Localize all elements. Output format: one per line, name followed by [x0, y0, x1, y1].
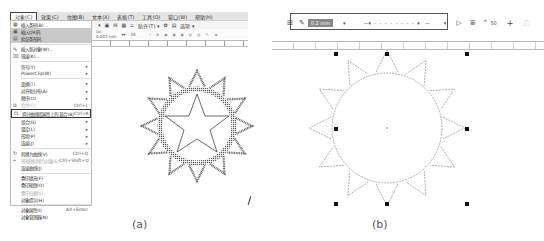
grid-icon[interactable]: ▦	[121, 22, 126, 28]
menu-item-label: 连接(J)	[21, 140, 34, 146]
menu-item[interactable]: 组合(G)▸	[11, 118, 91, 125]
options-dropdown[interactable]: 选项 ▾	[180, 22, 194, 29]
submenu-arrow-icon: ▸	[86, 81, 88, 86]
object-menu-dropdown: ▦插入条码(B)...▣插入QR码▤验证条形码✎插入新对象(W)...⌧链接(K…	[10, 20, 92, 206]
menu-item[interactable]: ↻转换为曲线(V)Ctrl+Q	[11, 150, 91, 157]
menu-item[interactable]: 叠印位图(V)	[11, 189, 91, 196]
menu-item-label: 锁定(L)	[21, 126, 35, 132]
menu-item-label: 对齐和分布(A)	[21, 88, 48, 94]
menu-item[interactable]: ▣插入QR码	[11, 28, 91, 35]
blend-dir-icon-3[interactable]: ◈	[181, 32, 184, 37]
menu-separator	[21, 148, 91, 149]
submenu-arrow-icon: ▸	[86, 119, 88, 124]
selection-handle-mr[interactable]	[465, 127, 469, 131]
menu-item[interactable]: 变换(T)▸	[11, 80, 91, 87]
menubar-item-6[interactable]: 窗口(W)	[164, 13, 191, 20]
selection-handle-ml[interactable]	[334, 127, 338, 131]
menu-item-label: 链接(K)...	[21, 53, 40, 59]
color-blend-icon-1[interactable]: ◎	[189, 32, 193, 37]
menu-item[interactable]: PowerClip(W)▸	[11, 70, 91, 77]
dropdown-arrow-icon[interactable]: ▾▾	[122, 32, 126, 37]
menu-item-label: 连接曲线(J)	[21, 165, 42, 171]
plus-button[interactable]: +	[507, 19, 514, 28]
menu-item-label: 叠印填充(F)	[21, 175, 43, 181]
menu-item[interactable]: ⌁将轮廓转换为对象(E)Ctrl+Shift+Q	[11, 157, 91, 164]
copy-blend-icon[interactable]: ⇲	[214, 32, 217, 37]
menu-item-icon: ▦	[13, 22, 18, 27]
selection-handle-bl[interactable]	[334, 202, 338, 206]
launch-icon[interactable]: ▤	[172, 22, 177, 28]
menu-item-icon: ✎	[13, 47, 18, 52]
menu-separator	[21, 78, 91, 79]
menu-item[interactable]: 符号(Y)▸	[11, 63, 91, 70]
miter-icon[interactable]: ⌃	[483, 19, 489, 27]
menu-item[interactable]: 对象提示(H)	[11, 196, 91, 203]
menu-item[interactable]: 对象管理器(N)	[11, 214, 91, 221]
menu-separator	[21, 173, 91, 174]
menu-item[interactable]: ⊡拆分曲线段属性上的 混合(B)Ctrl+K	[11, 109, 91, 118]
menu-item-icon: ↻	[13, 151, 18, 156]
selection-handle-tc[interactable]	[385, 52, 389, 56]
menu-item[interactable]: ⌧链接(K)...	[11, 53, 91, 60]
color-blend-icon-2[interactable]: ◎	[197, 32, 201, 37]
menu-item[interactable]: 锁定(L)▸	[11, 125, 91, 132]
menu-item[interactable]: ✎插入新对象(W)...	[11, 46, 91, 53]
gear-icon[interactable]: ✿	[163, 22, 167, 28]
menu-item[interactable]: ▦插入条码(B)...	[11, 21, 91, 28]
menu-item-shortcut: Ctrl+K	[74, 111, 89, 116]
path-icon[interactable]: ⊱	[156, 32, 159, 37]
submenu-arrow-icon: ▸	[86, 134, 88, 139]
snap-to-dropdown[interactable]: 贴齐(T) ▾	[138, 22, 159, 29]
selection-handle-bc[interactable]	[385, 202, 389, 206]
menu-item[interactable]: ⧉合并(C)Ctrl+L	[11, 102, 91, 109]
guides-icon[interactable]: ⊏	[130, 22, 134, 28]
menu-item[interactable]: 形状(P)▸	[11, 133, 91, 140]
menubar-item-4[interactable]: 表格(T)	[113, 13, 138, 20]
dashed-star-ring-artwork[interactable]	[300, 50, 475, 215]
standard-toolbar: ▾ ▣ ⊟ ▦ ⊏ 贴齐(T) ▾ ✿ ▤ 选项 ▾	[92, 21, 248, 29]
x-value[interactable]: 0.001 mm	[96, 34, 117, 39]
menu-item[interactable]: 连接曲线(J)	[11, 164, 91, 171]
menu-item-label: 对象管理器(N)	[21, 214, 48, 220]
miter-value[interactable]: 50	[490, 20, 496, 26]
submenu-arrow-icon: ▸	[86, 71, 88, 76]
menu-item-label: 验证条形码	[21, 36, 41, 42]
clear-blend-icon[interactable]: ✎	[206, 32, 209, 37]
dropdown-arrow-icon[interactable]: ▾	[98, 22, 101, 28]
menu-item[interactable]: ▤验证条形码	[11, 35, 91, 42]
blend-dir-icon-1[interactable]: ◈	[164, 32, 167, 37]
rulers-icon[interactable]: ⊟	[113, 22, 117, 28]
y-field[interactable]: 44	[131, 32, 136, 37]
menu-item[interactable]: 对象属性(I)Alt+Enter	[11, 206, 91, 213]
menubar-item-7[interactable]: 帮助(H)	[191, 13, 217, 20]
menu-item[interactable]: 连接(J)▸	[11, 140, 91, 147]
disabled-icon: ▢	[523, 19, 530, 27]
scale-outline-icon[interactable]: ≣	[470, 19, 476, 27]
menu-item-icon: ⌁	[13, 158, 18, 163]
submenu-arrow-icon: ▸	[86, 141, 88, 146]
menu-item[interactable]: 顺序(O)▸	[11, 95, 91, 102]
highlight-box	[290, 13, 448, 30]
menu-item-label: 变换(T)	[21, 81, 35, 87]
menubar-item-2[interactable]: 位图(B)	[63, 13, 88, 20]
fullscreen-icon[interactable]: ▣	[105, 22, 110, 28]
menu-item-shortcut: Ctrl+Q	[73, 151, 88, 156]
menu-item-label: PowerClip(W)	[21, 71, 51, 76]
menubar-item-5[interactable]: 工具(O)	[138, 13, 164, 20]
selection-handle-tl[interactable]	[334, 52, 338, 56]
menu-item[interactable]: 叠印轮廓(O)	[11, 182, 91, 189]
horizontal-ruler	[92, 40, 248, 47]
menu-item[interactable]: 叠印填充(F)	[11, 175, 91, 182]
menu-item[interactable]: 对齐和分布(A)▸	[11, 88, 91, 95]
menu-item-shortcut: Ctrl+L	[74, 103, 88, 108]
menu-separator	[21, 44, 91, 45]
blend-step-icon[interactable]: ◦	[149, 32, 151, 37]
blended-star-artwork[interactable]	[135, 68, 260, 183]
blend-dir-icon-2[interactable]: ◈	[172, 32, 175, 37]
selection-handle-tr[interactable]	[465, 52, 469, 56]
menubar-item-3[interactable]: 文本(X)	[88, 13, 113, 20]
menubar-item-1[interactable]: 效果(C)	[37, 13, 62, 20]
menu-item-label: 插入条码(B)...	[21, 22, 48, 28]
selection-handle-br[interactable]	[465, 202, 469, 206]
wrap-text-icon[interactable]: ▷	[456, 19, 461, 27]
